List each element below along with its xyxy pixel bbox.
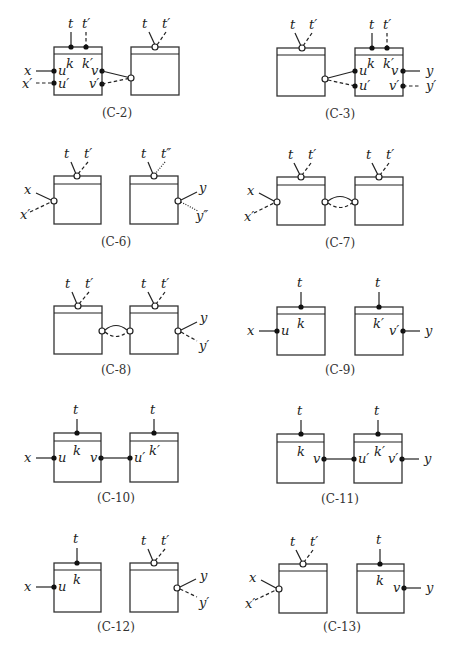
caption: (C-7) (325, 236, 355, 250)
figure-canvas: t t′ k k′ x x′ u u′ v v′ t t′ (C-2) (0, 0, 451, 647)
label-u-prime: u′ (359, 78, 370, 93)
label-u: u (58, 579, 66, 594)
filled-node-icon (298, 304, 303, 309)
label-y: y (424, 323, 433, 338)
open-node-icon (151, 173, 157, 179)
filled-node-icon (74, 560, 79, 565)
filled-node-icon (51, 80, 56, 85)
filled-node-icon (83, 44, 88, 49)
caption: (C-3) (325, 107, 355, 121)
filled-node-icon (51, 584, 56, 589)
label-t-prime: t′ (82, 16, 90, 31)
label-y-double-prime: y″ (195, 208, 208, 223)
panel-c9: t k x u t k′ v′ y (C-9) (247, 275, 433, 377)
label-x: x (247, 323, 255, 338)
label-k: k (297, 444, 305, 459)
open-node-icon (322, 199, 328, 205)
label-k-prime: k′ (149, 443, 160, 458)
filled-node-icon (51, 68, 56, 73)
label-y: y (199, 568, 208, 583)
module-box-left (54, 176, 101, 224)
label-t: t (376, 532, 382, 547)
open-node-icon (51, 198, 57, 204)
label-v-prime: v′ (388, 451, 398, 466)
label-x-prime: x′ (20, 207, 30, 222)
open-node-icon (99, 328, 105, 334)
filled-node-icon (377, 561, 382, 566)
label-t-prime: t′ (84, 146, 92, 161)
label-x: x (247, 183, 255, 198)
label-t: t (290, 534, 296, 549)
filled-node-icon (74, 430, 79, 435)
panel-c12: t k x u t t′ y y′ (C-12) (24, 531, 209, 634)
label-t: t (375, 275, 381, 290)
caption: (C-12) (97, 620, 135, 634)
label-t-prime: t′ (161, 533, 169, 548)
caption: (C-6) (101, 235, 131, 249)
label-y: y (425, 63, 434, 78)
panel-c13: t t′ x x′ t k v y (C-13) (245, 532, 434, 634)
label-t: t (366, 147, 372, 162)
label-t: t (297, 403, 303, 418)
filled-node-icon (298, 431, 303, 436)
open-node-icon (152, 303, 158, 309)
panel-c6: t t′ x x′ t t″ y y″ (C-6) (20, 146, 208, 249)
label-u: u (359, 63, 367, 78)
caption: (C-8) (101, 363, 131, 377)
label-v: v (391, 63, 399, 78)
filled-node-icon (375, 431, 380, 436)
label-y-prime: y′ (198, 595, 209, 610)
label-x-prime: x′ (245, 596, 255, 611)
label-v-prime: v′ (89, 76, 99, 91)
filled-node-icon (352, 68, 357, 73)
label-u: u (281, 323, 289, 338)
filled-node-icon (151, 430, 156, 435)
panel-c3: t t′ t t′ k k′ u u′ v v′ y y′ (C-3) (277, 17, 436, 121)
filled-node-icon (351, 456, 356, 461)
label-k-prime: k′ (374, 444, 385, 459)
open-node-icon (175, 328, 181, 334)
label-x: x (249, 570, 257, 585)
label-k: k (73, 443, 81, 458)
filled-node-icon (352, 83, 357, 88)
caption: (C-13) (323, 620, 361, 634)
label-t-double-prime: t″ (161, 146, 171, 161)
open-node-icon (276, 586, 282, 592)
open-node-icon (75, 303, 81, 309)
label-t-prime: t′ (309, 17, 317, 32)
label-t: t (68, 16, 74, 31)
label-k-prime: k′ (373, 316, 384, 331)
label-t-prime: t′ (85, 276, 93, 291)
filled-node-icon (68, 44, 73, 49)
label-x-prime: x′ (22, 76, 32, 91)
label-y-prime: y′ (198, 338, 209, 353)
caption: (C-9) (325, 363, 355, 377)
label-t-prime: t′ (386, 147, 394, 162)
open-node-icon (322, 76, 328, 82)
module-box-right (355, 177, 403, 225)
open-node-icon (352, 199, 358, 205)
label-k: k (66, 56, 74, 71)
label-t: t (141, 533, 147, 548)
label-t: t (290, 17, 296, 32)
label-t-prime: t′ (162, 16, 170, 31)
panel-c8: t t′ t t′ y y′ (C-8) (54, 276, 209, 377)
filled-node-icon (384, 45, 389, 50)
label-t-prime: t′ (383, 17, 391, 32)
caption: (C-10) (97, 491, 135, 505)
label-t: t (374, 403, 380, 418)
panel-c2: t t′ k k′ x x′ u u′ v v′ t t′ (C-2) (22, 16, 179, 120)
label-y-prime: y′ (425, 78, 436, 93)
label-k: k (73, 572, 81, 587)
caption: (C-11) (321, 492, 359, 506)
caption: (C-2) (102, 106, 132, 120)
label-x: x (24, 579, 32, 594)
open-node-icon (128, 75, 134, 81)
open-node-icon (151, 560, 157, 566)
label-v: v (393, 580, 401, 595)
label-t-prime: t′ (310, 534, 318, 549)
label-k: k (297, 316, 305, 331)
label-u: u (58, 450, 66, 465)
open-node-icon (300, 561, 306, 567)
open-node-icon (376, 174, 382, 180)
